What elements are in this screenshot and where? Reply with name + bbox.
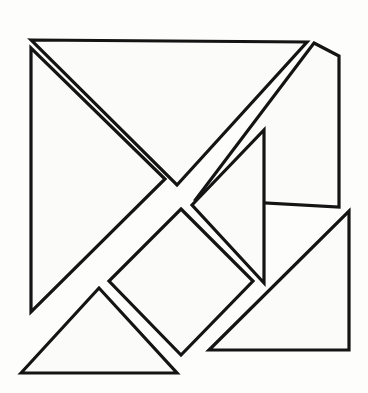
tangram-drawing — [0, 0, 368, 393]
tangram-figure-container — [0, 0, 368, 393]
